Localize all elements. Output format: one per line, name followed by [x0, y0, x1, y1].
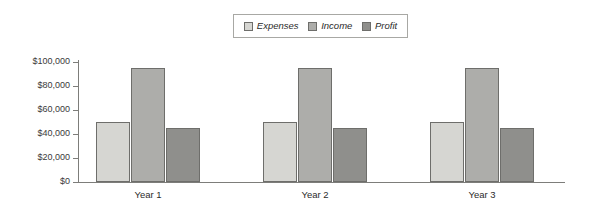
bar-income-2[interactable] — [298, 68, 332, 182]
chart-legend: Expenses Income Profit — [233, 14, 408, 38]
bar-expenses-3[interactable] — [430, 122, 464, 182]
y-axis-tick-label: $80,000 — [8, 81, 70, 90]
legend-label-income: Income — [321, 21, 352, 31]
bar-chart: Expenses Income Profit $0$20,000$40,000$… — [0, 0, 611, 212]
x-axis-line — [78, 182, 565, 183]
x-axis-label-3: Year 3 — [430, 190, 534, 200]
legend-item-expenses: Expenses — [244, 21, 299, 31]
legend-label-profit: Profit — [375, 21, 397, 31]
y-axis-tick — [73, 182, 78, 183]
legend-item-profit: Profit — [362, 21, 397, 31]
x-axis-label-2: Year 2 — [263, 190, 367, 200]
bar-income-3[interactable] — [465, 68, 499, 182]
legend-swatch-expenses — [244, 22, 253, 31]
legend-item-income: Income — [308, 21, 352, 31]
legend-swatch-income — [308, 22, 317, 31]
x-axis-label-1: Year 1 — [96, 190, 200, 200]
bar-income-1[interactable] — [131, 68, 165, 182]
bar-group — [430, 62, 534, 182]
bar-group — [96, 62, 200, 182]
y-axis-tick-label: $40,000 — [8, 129, 70, 138]
bar-profit-1[interactable] — [166, 128, 200, 182]
plot-area — [78, 62, 565, 182]
bar-expenses-1[interactable] — [96, 122, 130, 182]
legend-label-expenses: Expenses — [257, 21, 299, 31]
y-axis-tick-label: $20,000 — [8, 153, 70, 162]
y-axis-tick-label: $0 — [8, 177, 70, 186]
legend-swatch-profit — [362, 22, 371, 31]
y-axis-tick-label: $60,000 — [8, 105, 70, 114]
bar-profit-3[interactable] — [500, 128, 534, 182]
bar-expenses-2[interactable] — [263, 122, 297, 182]
y-axis-tick-label: $100,000 — [8, 57, 70, 66]
bar-group — [263, 62, 367, 182]
bar-profit-2[interactable] — [333, 128, 367, 182]
